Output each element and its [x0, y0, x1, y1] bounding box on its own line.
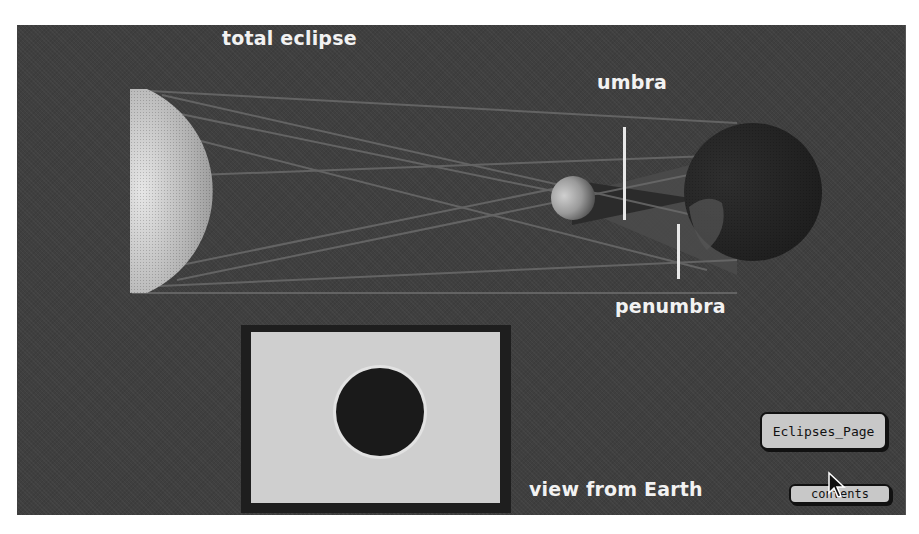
moon: [551, 176, 595, 220]
title-label: total eclipse: [222, 27, 357, 49]
eclipsed-sun: [336, 368, 424, 456]
penumbra-pointer: [677, 224, 680, 279]
eclipses-page-button[interactable]: Eclipses_Page: [760, 412, 887, 450]
penumbra-label: penumbra: [615, 295, 726, 317]
mouse-cursor-icon: [827, 471, 849, 501]
umbra-pointer: [623, 127, 626, 220]
eclipse-card: total eclipse umbra penumbra view from E…: [17, 25, 906, 515]
umbra-label: umbra: [597, 71, 667, 93]
view-from-earth-inset: [241, 325, 511, 513]
view-from-earth-label: view from Earth: [529, 478, 703, 500]
sky-panel: [251, 332, 500, 503]
